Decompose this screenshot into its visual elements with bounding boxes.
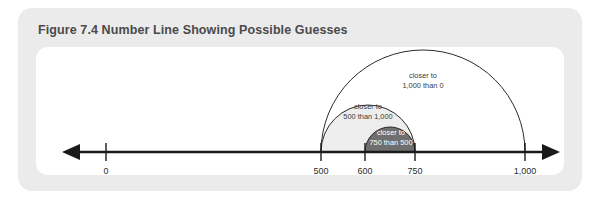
arc-label-inner-line2: 750 than 500 [369,138,412,147]
tick-label-600: 600 [357,166,372,175]
arc-label-outer-line1: closer to [409,71,437,80]
figure-card: Figure 7.4 Number Line Showing Possible … [18,8,582,191]
arc-label-middle-line1: closer to [354,102,382,111]
arc-label-inner-line1: closer to [377,128,405,137]
tick-label-0: 0 [103,166,108,175]
figure-title: Figure 7.4 Number Line Showing Possible … [38,23,348,37]
tick-label-500: 500 [313,166,328,175]
axis-arrow-right-icon [542,144,560,160]
tick-label-1000: 1,000 [514,166,537,175]
axis-arrow-left-icon [62,144,80,160]
number-line-diagram: 0 500 600 750 1,000 closer to 1,000 than… [36,47,564,175]
arc-label-outer-line2: 1,000 than 0 [402,81,443,90]
tick-label-750: 750 [407,166,422,175]
arc-label-middle-line2: 500 than 1,000 [343,112,392,121]
number-line-panel: 0 500 600 750 1,000 closer to 1,000 than… [36,47,564,175]
